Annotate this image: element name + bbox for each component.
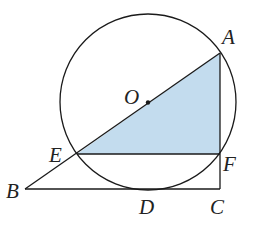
label-f: F xyxy=(222,152,236,176)
geometry-diagram: A O E F B D C xyxy=(0,0,256,243)
label-o: O xyxy=(124,85,139,109)
label-c: C xyxy=(210,195,225,219)
label-d: D xyxy=(138,195,154,219)
label-a: A xyxy=(220,25,235,49)
label-e: E xyxy=(48,143,62,167)
center-point-o xyxy=(146,100,150,104)
label-b: B xyxy=(6,179,19,203)
